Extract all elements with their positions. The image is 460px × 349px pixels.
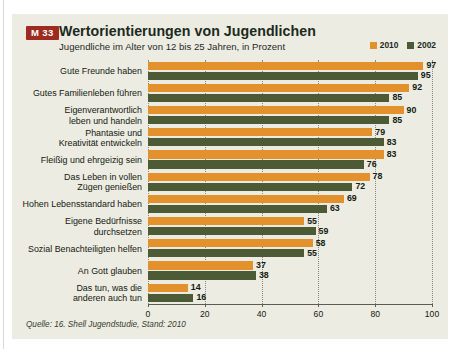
bar-value-label: 69 <box>347 194 357 202</box>
x-tick-label: 20 <box>200 309 210 319</box>
x-tick-label: 60 <box>314 309 324 319</box>
bar-value-label: 83 <box>387 150 397 158</box>
row-bars: 9285 <box>148 82 432 104</box>
chart-row: An Gott glauben3738 <box>12 260 448 282</box>
row-bars: 9085 <box>148 104 432 126</box>
chart-header: M 33 Wertorientierungen von Jugendlichen… <box>12 14 448 60</box>
bar-value-label: 55 <box>307 217 317 225</box>
x-tick-label: 80 <box>370 309 380 319</box>
chart-subtitle: Jugendliche im Alter von 12 bis 25 Jahre… <box>59 41 285 52</box>
bar-2002: 72 <box>148 183 352 191</box>
row-bars: 6963 <box>148 193 432 215</box>
bar-2002: 55 <box>148 249 304 257</box>
row-bars: 3738 <box>148 260 432 282</box>
category-label: Eigenverantwortlichleben und handeln <box>18 105 142 125</box>
x-axis-line <box>148 304 432 305</box>
x-tick-label: 0 <box>146 309 151 319</box>
category-label: Eigene Bedürfnissedurchsetzen <box>18 216 142 236</box>
bar-value-label: 72 <box>355 182 365 190</box>
legend-swatch-2002 <box>407 42 414 49</box>
bar-value-label: 92 <box>412 83 422 91</box>
bar-value-label: 90 <box>407 106 417 114</box>
chart-legend: 2010 2002 <box>370 41 436 49</box>
category-label: Hohen Lebensstandard haben <box>18 199 142 209</box>
bar-value-label: 58 <box>316 239 326 247</box>
bar-value-label: 78 <box>373 172 383 180</box>
category-label: Gute Freunde haben <box>18 66 142 76</box>
legend-label-2010: 2010 <box>380 41 399 49</box>
bar-2010: 37 <box>148 261 253 269</box>
x-axis: 020406080100 <box>148 304 432 328</box>
legend-label-2002: 2002 <box>417 41 436 49</box>
x-tick <box>375 304 376 307</box>
bar-value-label: 37 <box>256 261 266 269</box>
bar-2010: 90 <box>148 106 404 114</box>
x-tick-label: 40 <box>257 309 267 319</box>
bar-2010: 79 <box>148 128 372 136</box>
row-bars: 5559 <box>148 215 432 237</box>
row-bars: 1416 <box>148 282 432 304</box>
bar-rows: Gute Freunde haben9795Gutes Familienlebe… <box>12 60 448 304</box>
bar-value-label: 85 <box>392 116 402 124</box>
bar-value-label: 79 <box>375 128 385 136</box>
bar-value-label: 16 <box>196 293 206 301</box>
chart-row: Eigene Bedürfnissedurchsetzen5559 <box>12 215 448 237</box>
bar-2010: 97 <box>148 62 423 70</box>
x-tick <box>148 304 149 307</box>
bar-2010: 55 <box>148 217 304 225</box>
bar-value-label: 83 <box>387 138 397 146</box>
legend-swatch-2010 <box>370 42 377 49</box>
bar-2010: 14 <box>148 284 188 292</box>
category-label: Das tun, was dieanderen auch tun <box>18 283 142 303</box>
x-tick <box>318 304 319 307</box>
chart-row: Sozial Benachteiligten helfen5855 <box>12 238 448 260</box>
category-label: Fleißig und ehrgeizig sein <box>18 155 142 165</box>
bar-value-label: 55 <box>307 249 317 257</box>
chart-row: Das Leben in vollenZügen genießen7872 <box>12 171 448 193</box>
row-bars: 7872 <box>148 171 432 193</box>
category-label: An Gott glauben <box>18 266 142 276</box>
bar-2002: 38 <box>148 271 256 279</box>
bar-2010: 92 <box>148 84 409 92</box>
row-bars: 5855 <box>148 238 432 260</box>
x-tick-label: 100 <box>425 309 439 319</box>
category-label: Sozial Benachteiligten helfen <box>18 244 142 254</box>
row-bars: 7983 <box>148 127 432 149</box>
bar-2010: 58 <box>148 239 313 247</box>
bar-value-label: 85 <box>392 93 402 101</box>
bar-2002: 59 <box>148 227 316 235</box>
source-note: Quelle: 16. Shell Jugendstudie, Stand: 2… <box>26 320 186 329</box>
chart-row: Gutes Familienleben führen9285 <box>12 82 448 104</box>
chart-row: Hohen Lebensstandard haben6963 <box>12 193 448 215</box>
bar-value-label: 97 <box>426 61 436 69</box>
x-tick <box>205 304 206 307</box>
chart-row: Phantasie undKreativität entwickeln7983 <box>12 127 448 149</box>
bar-2010: 83 <box>148 150 384 158</box>
bar-2002: 95 <box>148 72 418 80</box>
bar-2002: 76 <box>148 160 364 168</box>
legend-item-2010: 2010 <box>370 41 399 49</box>
chart-figure: M 33 Wertorientierungen von Jugendlichen… <box>12 14 448 339</box>
row-bars: 8376 <box>148 149 432 171</box>
page-edge-rule <box>3 0 4 349</box>
chart-row: Gute Freunde haben9795 <box>12 60 448 82</box>
chart-title: Wertorientierungen von Jugendlichen <box>59 23 316 39</box>
bar-2010: 69 <box>148 195 344 203</box>
material-badge: M 33 <box>26 26 59 40</box>
bar-value-label: 38 <box>259 271 269 279</box>
category-label: Phantasie undKreativität entwickeln <box>18 127 142 147</box>
chart-row: Fleißig und ehrgeizig sein8376 <box>12 149 448 171</box>
bar-2010: 78 <box>148 173 370 181</box>
bar-value-label: 63 <box>330 204 340 212</box>
bar-value-label: 95 <box>421 71 431 79</box>
x-tick <box>262 304 263 307</box>
bar-2002: 85 <box>148 116 389 124</box>
plot-area: Gute Freunde haben9795Gutes Familienlebe… <box>12 60 448 315</box>
row-bars: 9795 <box>148 60 432 82</box>
bar-2002: 85 <box>148 94 389 102</box>
bar-value-label: 14 <box>191 283 201 291</box>
chart-row: Das tun, was dieanderen auch tun1416 <box>12 282 448 304</box>
legend-item-2002: 2002 <box>407 41 436 49</box>
bar-value-label: 59 <box>319 227 329 235</box>
category-label: Gutes Familienleben führen <box>18 88 142 98</box>
